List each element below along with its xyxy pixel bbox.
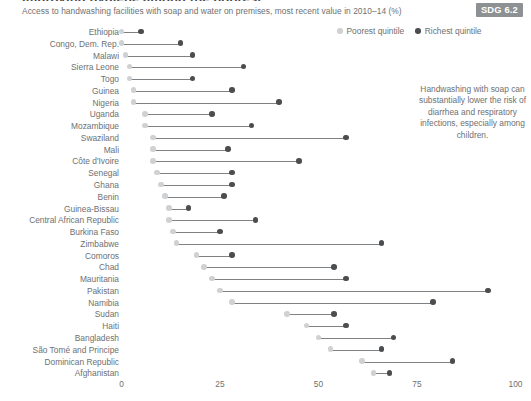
data-point-poorest <box>316 335 322 341</box>
data-point-poorest <box>166 217 172 223</box>
connector-line <box>204 267 334 268</box>
connector-line <box>129 67 243 68</box>
data-point-richest <box>253 217 259 223</box>
data-point-poorest <box>174 240 180 246</box>
data-point-poorest <box>359 358 365 364</box>
x-axis-tick-label: 50 <box>314 379 323 389</box>
connector-line <box>287 314 334 315</box>
data-point-poorest <box>328 346 334 352</box>
data-point-poorest <box>371 370 377 376</box>
connector-line <box>220 291 488 292</box>
connector-line <box>122 44 181 45</box>
connector-line <box>330 350 381 351</box>
data-point-richest <box>343 276 349 282</box>
data-point-poorest <box>142 111 148 117</box>
x-axis-tick-label: 100 <box>509 379 523 389</box>
connector-line <box>177 244 382 245</box>
data-point-poorest <box>127 76 133 82</box>
connector-line <box>157 173 232 174</box>
x-axis-tick-label: 25 <box>215 379 224 389</box>
data-point-poorest <box>284 311 290 317</box>
data-point-poorest <box>209 276 215 282</box>
data-point-richest <box>450 358 456 364</box>
data-point-poorest <box>166 205 172 211</box>
data-point-poorest <box>127 64 133 70</box>
data-point-richest <box>343 135 349 141</box>
data-point-richest <box>276 99 282 105</box>
data-point-poorest <box>150 146 156 152</box>
connector-line <box>153 138 346 139</box>
connector-line <box>161 185 232 186</box>
data-point-poorest <box>150 135 156 141</box>
connector-line <box>165 197 224 198</box>
connector-line <box>129 79 192 80</box>
data-point-poorest <box>154 170 160 176</box>
data-point-poorest <box>229 299 235 305</box>
data-point-richest <box>138 29 144 35</box>
connector-line <box>145 126 251 127</box>
connector-line <box>173 232 220 233</box>
data-point-poorest <box>304 323 310 329</box>
data-point-poorest <box>217 288 223 294</box>
connector-line <box>362 362 453 363</box>
data-point-richest <box>430 299 436 305</box>
data-point-richest <box>343 323 349 329</box>
data-point-poorest <box>123 52 129 58</box>
data-point-poorest <box>131 99 137 105</box>
data-point-poorest <box>131 87 137 93</box>
connector-line <box>153 150 228 151</box>
connector-line <box>196 256 231 257</box>
data-point-richest <box>241 64 247 70</box>
data-point-richest <box>485 288 491 294</box>
data-point-poorest <box>170 229 176 235</box>
data-point-poorest <box>142 123 148 129</box>
connector-line <box>307 326 346 327</box>
data-point-richest <box>331 264 337 270</box>
data-point-richest <box>229 182 235 188</box>
x-axis: 0255075100 <box>0 379 531 393</box>
data-point-richest <box>225 146 231 152</box>
data-point-poorest <box>194 252 200 258</box>
connector-line <box>319 338 394 339</box>
data-point-richest <box>217 229 223 235</box>
connector-line <box>153 161 299 162</box>
data-point-richest <box>229 170 235 176</box>
data-point-richest <box>249 123 255 129</box>
connector-line <box>133 91 232 92</box>
data-point-richest <box>209 111 215 117</box>
connector-line <box>145 114 212 115</box>
connector-line <box>125 56 192 57</box>
data-point-poorest <box>119 29 125 35</box>
data-point-richest <box>296 158 302 164</box>
data-point-poorest <box>119 40 125 46</box>
data-point-poorest <box>158 182 164 188</box>
data-point-richest <box>379 240 385 246</box>
data-point-richest <box>387 370 393 376</box>
data-point-richest <box>190 76 196 82</box>
connector-line <box>133 103 279 104</box>
x-axis-tick-label: 0 <box>119 379 124 389</box>
data-point-poorest <box>162 193 168 199</box>
data-point-poorest <box>201 264 207 270</box>
data-point-richest <box>190 52 196 58</box>
data-point-richest <box>186 205 192 211</box>
data-point-richest <box>221 193 227 199</box>
data-point-poorest <box>150 158 156 164</box>
connector-line <box>169 220 256 221</box>
data-point-richest <box>178 40 184 46</box>
chart-plot-area: EthiopiaCongo, Dem. Rep.MalawiSierra Leo… <box>0 0 531 401</box>
connector-line <box>212 279 346 280</box>
x-axis-tick-label: 75 <box>412 379 421 389</box>
data-point-richest <box>391 335 397 341</box>
data-point-richest <box>229 252 235 258</box>
data-point-richest <box>229 87 235 93</box>
data-point-richest <box>379 346 385 352</box>
connector-line <box>232 303 433 304</box>
data-point-richest <box>331 311 337 317</box>
